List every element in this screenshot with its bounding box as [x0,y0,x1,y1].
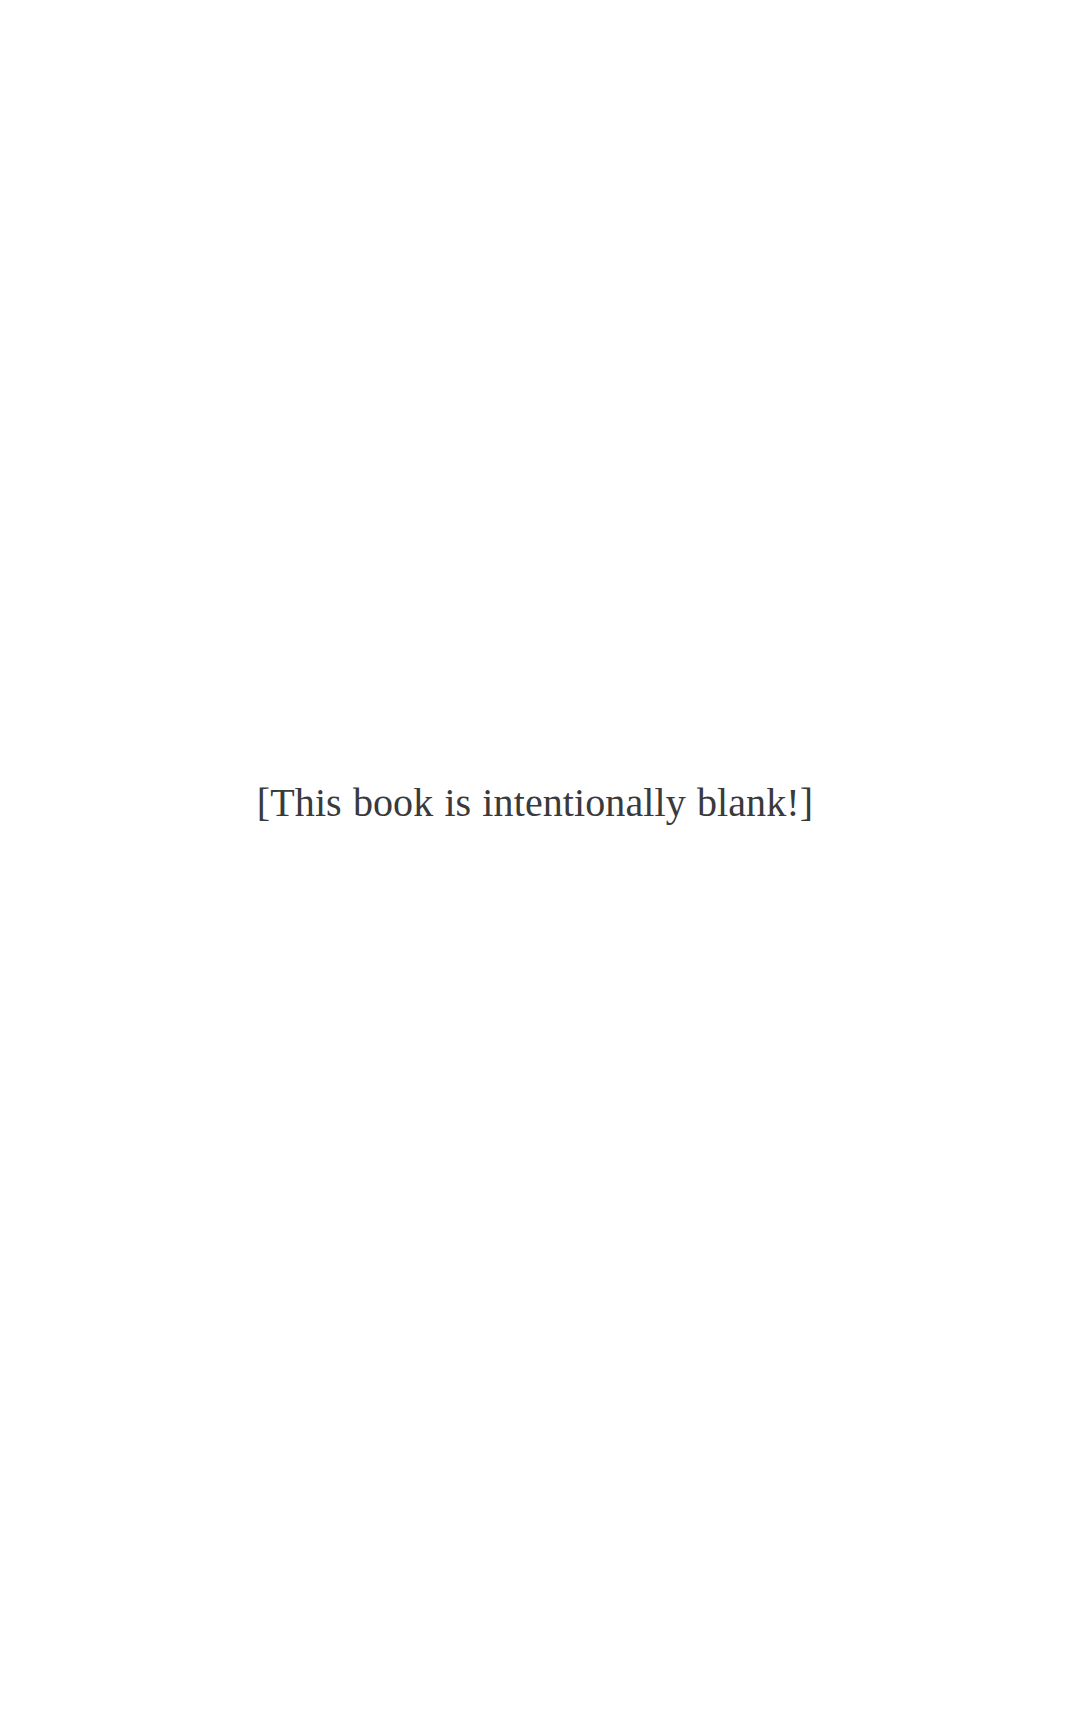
blank-notice-block: [This book is intentionally blank!] [0,783,1070,823]
book-page: [This book is intentionally blank!] [0,0,1070,1723]
page-header-zone [0,0,1070,780]
blank-page-notice: [This book is intentionally blank!] [257,783,813,823]
page-footer-zone [0,850,1070,1723]
